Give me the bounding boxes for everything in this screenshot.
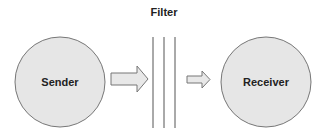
receiver-label: Receiver: [243, 76, 290, 88]
diagram-canvas: Filter Sender Receiver: [0, 0, 329, 138]
arrow-right-icon: [111, 66, 148, 92]
filter-title: Filter: [151, 6, 179, 18]
arrow-right-icon: [187, 71, 210, 88]
sender-label: Sender: [41, 76, 79, 88]
filter-lines: [153, 37, 175, 128]
sender-node: Sender: [15, 37, 105, 127]
receiver-node: Receiver: [221, 37, 311, 127]
